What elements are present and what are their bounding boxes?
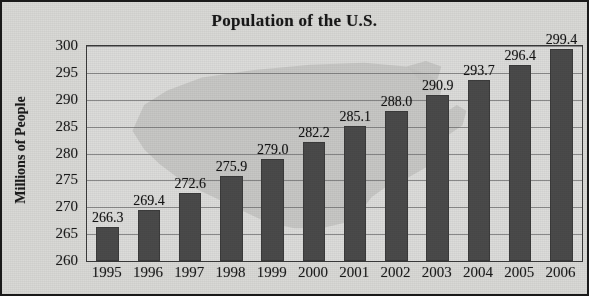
- bar-group-1997: 272.6: [179, 46, 202, 261]
- x-axis-tick-2000: 2000: [298, 264, 328, 281]
- bar-2006[interactable]: [550, 49, 573, 261]
- x-axis-tick-1995: 1995: [92, 264, 122, 281]
- bar-2004[interactable]: [468, 80, 491, 261]
- bar-2000[interactable]: [303, 142, 326, 261]
- x-axis-tick-2003: 2003: [422, 264, 452, 281]
- x-axis-tick-2005: 2005: [504, 264, 534, 281]
- y-axis-tick-295: 295: [56, 63, 79, 80]
- bar-value-label-2005: 296.4: [504, 48, 536, 64]
- y-axis-tick-275: 275: [56, 171, 79, 188]
- bar-2003[interactable]: [426, 95, 449, 261]
- bar-value-label-2003: 290.9: [422, 78, 454, 94]
- bar-value-label-2000: 282.2: [298, 125, 330, 141]
- chart-image: Population of the U.S. Millions of Peopl…: [0, 0, 589, 296]
- bar-value-label-1997: 272.6: [174, 176, 206, 192]
- bar-group-1996: 269.4: [138, 46, 161, 261]
- y-axis-title-text: Millions of People: [13, 96, 29, 203]
- bar-series: 266.3269.4272.6275.9279.0282.2285.1288.0…: [87, 46, 582, 261]
- x-axis-tick-labels: 1995199619971998199920002001200220032004…: [86, 264, 581, 290]
- bar-group-2002: 288.0: [385, 46, 408, 261]
- y-axis-title: Millions of People: [8, 62, 34, 237]
- bar-1999[interactable]: [261, 159, 284, 261]
- bar-group-2000: 282.2: [303, 46, 326, 261]
- bar-group-2005: 296.4: [509, 46, 532, 261]
- bar-value-label-1996: 269.4: [133, 193, 165, 209]
- bar-value-label-2001: 285.1: [339, 109, 371, 125]
- bar-2005[interactable]: [509, 65, 532, 261]
- bar-value-label-1999: 279.0: [257, 142, 289, 158]
- bar-value-label-2002: 288.0: [381, 94, 413, 110]
- bar-group-1998: 275.9: [220, 46, 243, 261]
- x-axis-tick-1997: 1997: [174, 264, 204, 281]
- x-axis-tick-1998: 1998: [215, 264, 245, 281]
- bar-value-label-2006: 299.4: [546, 32, 578, 48]
- y-axis-tick-290: 290: [56, 90, 79, 107]
- bar-group-2006: 299.4: [550, 46, 573, 261]
- bar-value-label-2004: 293.7: [463, 63, 495, 79]
- bar-1997[interactable]: [179, 193, 202, 261]
- bar-group-1995: 266.3: [96, 46, 119, 261]
- bar-group-2001: 285.1: [344, 46, 367, 261]
- bar-2002[interactable]: [385, 111, 408, 262]
- y-axis-tick-260: 260: [56, 252, 79, 269]
- chart-title: Population of the U.S.: [2, 11, 587, 31]
- x-axis-tick-2001: 2001: [339, 264, 369, 281]
- bar-group-1999: 279.0: [261, 46, 284, 261]
- y-axis-tick-285: 285: [56, 117, 79, 134]
- bar-group-2004: 293.7: [468, 46, 491, 261]
- y-axis-tick-280: 280: [56, 144, 79, 161]
- y-axis-tick-265: 265: [56, 225, 79, 242]
- plot-area: 266.3269.4272.6275.9279.0282.2285.1288.0…: [86, 45, 583, 262]
- y-axis-tick-300: 300: [56, 37, 79, 54]
- y-axis-tick-labels: 300295290285280275270265260: [34, 34, 82, 268]
- bar-value-label-1998: 275.9: [216, 159, 248, 175]
- x-axis-tick-1999: 1999: [257, 264, 287, 281]
- bar-1995[interactable]: [96, 227, 119, 261]
- bar-2001[interactable]: [344, 126, 367, 261]
- x-axis-tick-2002: 2002: [380, 264, 410, 281]
- bar-group-2003: 290.9: [426, 46, 449, 261]
- x-axis-tick-2006: 2006: [545, 264, 575, 281]
- bar-1996[interactable]: [138, 210, 161, 261]
- bar-value-label-1995: 266.3: [92, 210, 124, 226]
- x-axis-tick-2004: 2004: [463, 264, 493, 281]
- bar-1998[interactable]: [220, 176, 243, 261]
- y-axis-tick-270: 270: [56, 198, 79, 215]
- x-axis-tick-1996: 1996: [133, 264, 163, 281]
